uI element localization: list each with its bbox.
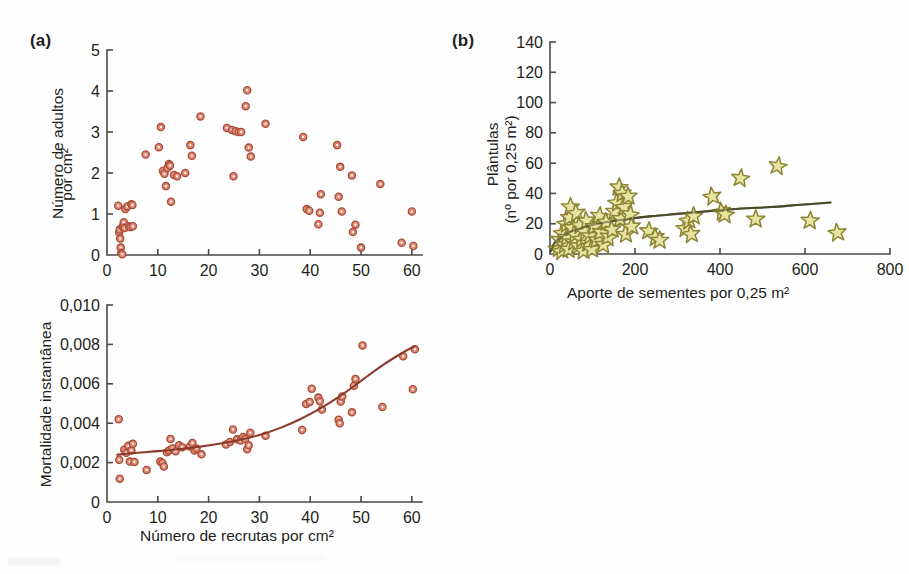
data-point-circle-center <box>354 378 356 380</box>
data-point-circle-center <box>163 465 165 467</box>
data-point-circle-center <box>264 435 266 437</box>
chart-mortality-vs-recruits: 00,0020,0040,0060,0080,0100102030405060 <box>0 285 460 535</box>
data-point-circle-center <box>301 429 303 431</box>
data-point-circle-center <box>120 246 122 248</box>
data-point-circle-center <box>317 223 319 225</box>
data-point-circle-center <box>412 245 414 247</box>
data-point-circle-center <box>200 453 202 455</box>
data-point-circle-center <box>249 432 251 434</box>
x-tick-label: 0 <box>103 509 112 526</box>
x-tick-label: 60 <box>403 262 421 279</box>
y-tick-label: 4 <box>91 83 100 100</box>
data-point-circle-center <box>119 478 121 480</box>
data-point-circle-center <box>184 172 186 174</box>
y-tick-label: 2 <box>91 165 100 182</box>
data-point-circle-center <box>302 136 304 138</box>
x-tick-label: 50 <box>352 509 370 526</box>
y-tick-label: 60 <box>525 155 543 172</box>
data-point-circle-center <box>250 155 252 157</box>
chart-mortality-xlabel: Número de recrutas por cm² <box>140 527 334 546</box>
data-point-circle-center <box>339 422 341 424</box>
y-tick-label: 80 <box>525 124 543 141</box>
y-tick-label: 0,010 <box>60 297 100 314</box>
data-point-circle-center <box>339 166 341 168</box>
data-point-circle-center <box>191 442 193 444</box>
data-point-circle-center <box>232 428 234 430</box>
data-point-circle-center <box>379 183 381 185</box>
data-point-star <box>747 210 765 227</box>
data-point-circle-center <box>121 253 123 255</box>
y-tick-label: 0,008 <box>60 336 100 353</box>
y-tick-label: 0 <box>534 246 543 263</box>
data-point-circle-center <box>117 205 119 207</box>
data-point-circle-center <box>119 237 121 239</box>
data-point-circle-center <box>118 418 120 420</box>
y-tick-label: 0 <box>91 247 100 264</box>
data-point-circle-center <box>245 105 247 107</box>
scan-artifact <box>8 558 60 565</box>
data-point-circle-center <box>131 204 133 206</box>
data-point-circle-center <box>336 144 338 146</box>
data-point-circle-center <box>144 153 146 155</box>
data-point-circle-center <box>246 89 248 91</box>
x-tick-label: 20 <box>200 262 218 279</box>
x-tick-label: 200 <box>622 261 649 278</box>
x-tick-label: 60 <box>403 509 421 526</box>
data-point-circle-center <box>133 461 135 463</box>
y-tick-label: 120 <box>516 64 543 81</box>
data-point-circle-center <box>232 175 234 177</box>
x-tick-label: 50 <box>352 262 370 279</box>
data-point-star <box>769 157 787 175</box>
data-point-circle-center <box>123 221 125 223</box>
y-tick-label: 20 <box>525 215 543 232</box>
data-point-circle-center <box>360 246 362 248</box>
data-point-circle-center <box>118 458 120 460</box>
data-point-circle-center <box>264 123 266 125</box>
data-point-circle-center <box>381 406 383 408</box>
data-point-circle-center <box>308 210 310 212</box>
y-tick-label: 0 <box>91 494 100 511</box>
data-point-circle-center <box>248 146 250 148</box>
x-tick-label: 10 <box>149 509 167 526</box>
y-tick-label: 0,006 <box>60 375 100 392</box>
x-tick-label: 10 <box>149 262 167 279</box>
y-tick-label: 140 <box>516 34 543 51</box>
data-point-circle-center <box>338 196 340 198</box>
data-point-circle-center <box>354 224 356 226</box>
y-tick-label: 0,004 <box>60 415 100 432</box>
data-point-circle-center <box>401 242 403 244</box>
data-point-star <box>703 187 721 205</box>
data-point-circle-center <box>320 193 322 195</box>
data-point-circle-center <box>132 225 134 227</box>
data-point-circle-center <box>319 400 321 402</box>
data-point-group <box>115 87 417 258</box>
data-point-circle-center <box>169 164 171 166</box>
data-point-circle-center <box>189 144 191 146</box>
data-point-circle-center <box>191 155 193 157</box>
data-point-circle-center <box>176 175 178 177</box>
data-point-circle-center <box>309 401 311 403</box>
y-tick-label: 1 <box>91 206 100 223</box>
data-point-circle-center <box>158 146 160 148</box>
x-tick-label: 600 <box>792 261 819 278</box>
data-point-group <box>548 157 846 260</box>
data-point-circle-center <box>145 469 147 471</box>
chart-mortality-ylabel: Mortalidade instantânea <box>37 294 56 514</box>
data-point-circle-center <box>199 115 201 117</box>
x-tick-label: 0 <box>103 262 112 279</box>
x-tick-label: 800 <box>877 261 904 278</box>
x-tick-label: 40 <box>301 509 319 526</box>
y-tick-label: 0,002 <box>60 454 100 471</box>
data-point-group <box>115 342 418 483</box>
data-point-circle-center <box>412 388 414 390</box>
figure-canvas: (a) 0123450102030405060 Número de adulto… <box>0 0 909 574</box>
x-tick-label: 20 <box>200 509 218 526</box>
data-point-circle-center <box>240 131 242 133</box>
data-point-circle-center <box>226 127 228 129</box>
x-tick-label: 40 <box>301 262 319 279</box>
chart-seedlings-xlabel: Aporte de sementes por 0,25 m² <box>567 284 789 303</box>
data-point-star <box>801 211 819 228</box>
chart-seedlings-ylabel-line2: (nº por 0,25 m²) <box>502 79 521 259</box>
data-point-circle-center <box>414 348 416 350</box>
data-point-circle-center <box>361 344 363 346</box>
